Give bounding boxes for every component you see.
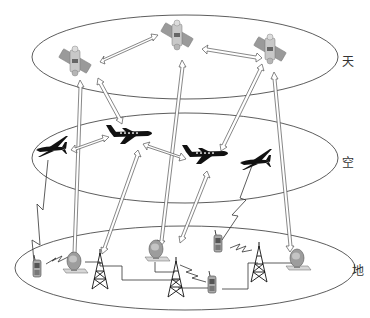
ground-layer-label: 地 (352, 261, 364, 278)
wireless-link-uav-phone1 (32, 160, 48, 262)
handset-2-icon (214, 230, 222, 252)
uav-right-icon (240, 149, 272, 170)
ground-station-2-icon (145, 240, 170, 261)
ground-station-1-icon (63, 252, 88, 273)
jet-center-left-icon (106, 125, 152, 144)
air-layer-label: 空 (342, 153, 354, 170)
space-air-ground-network-diagram (0, 0, 370, 318)
cell-tower-2-icon (168, 257, 184, 297)
space-layer-label: 天 (342, 52, 354, 69)
handset-3-icon (208, 271, 216, 293)
wireless-link-tower2-phone3 (180, 265, 206, 282)
wireless-link-phone1-station1 (46, 256, 68, 264)
uav-left-icon (36, 136, 68, 157)
cell-tower-1-icon (92, 249, 108, 289)
wireless-link-phone2-tower3 (230, 244, 252, 252)
satellite-left-icon (59, 46, 92, 76)
handset-1-icon (33, 255, 41, 277)
satellite-center-icon (161, 20, 194, 50)
wired-link-station2-tower2 (155, 262, 175, 272)
cell-tower-3-icon (251, 242, 267, 282)
